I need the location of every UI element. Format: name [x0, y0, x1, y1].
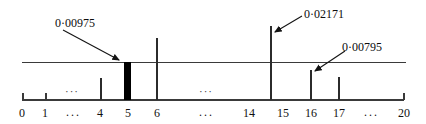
x-axis-line: [22, 99, 404, 101]
upper-ellipsis-left: ···: [65, 85, 79, 97]
tick-label-4: 4: [97, 107, 103, 119]
upper-ellipsis-mid: ···: [199, 85, 213, 97]
tick-label-16: 16: [305, 107, 317, 119]
bar-at-14-7: [270, 26, 272, 100]
arrow-to-bar-5: [63, 30, 119, 60]
axis-tick-0: [22, 93, 24, 100]
bar-chart-figure: ··· ··· 0 1 ··· 4 5 6 ··· 14 15 16 17 ··…: [0, 0, 426, 124]
bar-at-16: [310, 70, 312, 100]
annotation-0-00975: 0·00975: [55, 17, 95, 30]
tick-label-15: 15: [277, 107, 289, 119]
tick-ellipsis-3: ···: [364, 109, 379, 121]
annotation-0-00795: 0·00795: [342, 41, 382, 54]
annotation-0-02171: 0·02171: [304, 8, 344, 21]
tick-ellipsis-2: ···: [199, 109, 214, 121]
tick-label-1: 1: [42, 107, 48, 119]
axis-tick-1: [45, 93, 47, 100]
arrow-to-bar-16: [315, 51, 345, 71]
tick-label-17: 17: [333, 107, 345, 119]
arrow-to-bar-14-7: [275, 16, 302, 32]
bar-at-4: [100, 78, 102, 100]
tick-label-14: 14: [243, 107, 255, 119]
tick-label-20: 20: [398, 107, 410, 119]
axis-tick-20: [403, 93, 405, 100]
bar-at-17: [338, 77, 340, 100]
bar-at-6: [156, 38, 158, 100]
tick-label-5: 5: [125, 107, 131, 119]
tick-ellipsis-1: ···: [66, 109, 81, 121]
tick-label-6: 6: [154, 107, 160, 119]
tick-label-0: 0: [19, 107, 25, 119]
bar-at-5: [124, 62, 131, 100]
reference-line: [22, 62, 406, 63]
